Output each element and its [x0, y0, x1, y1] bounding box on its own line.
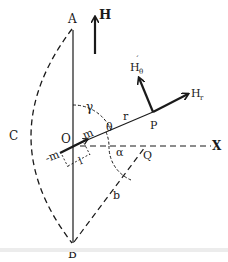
dipole-length-guide-2: [84, 143, 90, 155]
label-h-theta-sub: θ: [139, 68, 143, 76]
label-r: r: [123, 110, 129, 123]
h-theta-arrow: [139, 78, 153, 112]
label-h-r: H r: [191, 87, 204, 102]
label-q: Q: [143, 149, 152, 162]
label-h: H: [99, 7, 111, 22]
label-h-theta-accent: ´: [135, 55, 139, 64]
label-h-r-sub: r: [200, 94, 204, 102]
label-a: A: [67, 12, 77, 26]
h-r-arrow: [153, 94, 188, 112]
label-o: O: [61, 132, 71, 146]
theta-angle-arc: [106, 132, 109, 146]
label-p: P: [150, 119, 158, 132]
label-b: b: [113, 189, 120, 202]
label-theta: θ: [106, 121, 113, 134]
label-h-theta: H ´ θ: [130, 55, 143, 76]
label-alpha: α: [116, 146, 124, 159]
label-neg-m: -m: [43, 148, 62, 166]
label-l: l: [77, 155, 84, 166]
label-c: C: [9, 129, 18, 143]
dipole-length-guide-1: [62, 155, 68, 167]
label-m: m: [81, 126, 96, 142]
label-x: X: [212, 139, 222, 153]
dashed-line-bq: [74, 147, 145, 242]
scan-band-divider: [0, 248, 228, 252]
dipole-field-diagram: A H H ´ θ H r P r γ θ m O -m l C α Q X b…: [0, 0, 228, 262]
label-gamma: γ: [86, 100, 93, 114]
